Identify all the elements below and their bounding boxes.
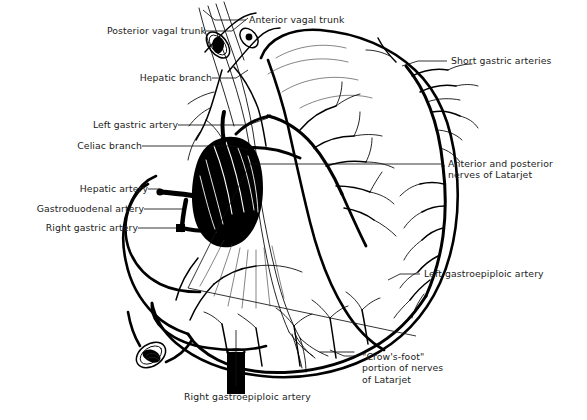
fundus-shading xyxy=(268,45,372,108)
label-left-gastric-artery: Left gastric artery xyxy=(0,119,182,130)
leader-lines xyxy=(138,10,447,386)
crows-foot-branches xyxy=(289,332,354,372)
label-crows-foot: "Crow's-foot" portion of nerves of Latar… xyxy=(362,351,443,385)
label-anterior-vagal-trunk: Anterior vagal trunk xyxy=(249,14,344,25)
label-gastroduodenal-artery: Gastroduodenal artery xyxy=(0,203,148,214)
label-nerves-of-latarjet: Anterior and posterior nerves of Latarje… xyxy=(448,158,553,181)
label-right-gastric-artery: Right gastric artery xyxy=(0,222,142,233)
label-hepatic-artery: Hepatic artery xyxy=(0,183,152,194)
label-hepatic-branch: Hepatic branch xyxy=(0,72,216,83)
antral-nerve-fibers xyxy=(200,240,284,308)
label-celiac-branch: Celiac branch xyxy=(0,140,146,151)
label-posterior-vagal-trunk: Posterior vagal trunk xyxy=(0,25,210,36)
anatomical-figure: Posterior vagal trunk Anterior vagal tru… xyxy=(0,0,587,420)
label-left-gastroepiploic-artery: Left gastroepiploic artery xyxy=(424,268,544,279)
label-right-gastroepiploic-artery: Right gastroepiploic artery xyxy=(184,391,311,402)
left-gastroepiploic-arcade xyxy=(394,166,445,318)
label-short-gastric-arteries: Short gastric arteries xyxy=(451,55,552,66)
